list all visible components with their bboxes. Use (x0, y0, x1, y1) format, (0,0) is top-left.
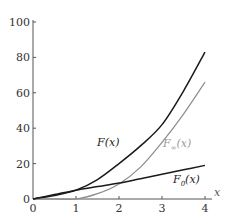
label-F-zero-main: F (172, 173, 181, 186)
x-tick-label: 4 (202, 202, 209, 215)
distribution-chart: 020406080100 01234 x F(x) F∞(x) F0(x) (0, 0, 225, 218)
y-tick-label: 20 (16, 158, 30, 171)
x-tick-label: 3 (159, 202, 166, 215)
x-tick-label: 1 (73, 202, 80, 215)
y-tick-label: 80 (16, 51, 30, 64)
y-ticks: 020406080100 (9, 16, 36, 206)
x-tick-label: 2 (116, 202, 123, 215)
y-tick-label: 100 (9, 16, 30, 29)
label-F-infinity-main: F (162, 137, 171, 150)
label-F-infinity: F∞(x) (162, 137, 191, 152)
y-tick-label: 60 (16, 87, 30, 100)
label-F: F(x) (96, 136, 119, 149)
label-F-zero-tail: (x) (185, 173, 200, 186)
label-F-zero: F0(x) (172, 173, 200, 188)
label-F-infinity-tail: (x) (176, 137, 191, 150)
x-tick-label: 0 (30, 202, 37, 215)
y-tick-label: 40 (16, 122, 30, 135)
x-axis-label: x (214, 186, 221, 199)
